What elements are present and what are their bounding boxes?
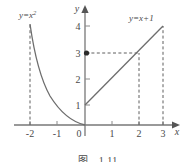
y-axis-label: y <box>74 3 80 14</box>
curve-label-parabola-exponent: 2 <box>33 9 37 16</box>
axes-group <box>14 5 180 136</box>
x-tick-label--2: -2 <box>26 128 34 139</box>
marked-point-0-3 <box>84 50 89 55</box>
dashed-guides-group <box>30 24 163 125</box>
figure-container: -2 -1 0 1 2 3 1 2 3 4 y x y=x2 y=x+1 图1.… <box>0 0 184 162</box>
svg-text:y=x2: y=x2 <box>18 9 37 21</box>
curve-label-parabola: y=x2 <box>18 9 37 21</box>
x-tick-label-0: 0 <box>77 128 82 139</box>
x-tick-label-2: 2 <box>137 128 142 139</box>
plot-canvas: -2 -1 0 1 2 3 1 2 3 4 y x y=x2 y=x+1 <box>0 0 184 162</box>
y-tick-label-2: 2 <box>76 74 81 85</box>
y-tick-labels: 1 2 3 4 <box>76 21 81 111</box>
caption-number: 1.11 <box>99 155 118 162</box>
y-axis-ticks <box>85 26 90 105</box>
y-axis-arrow <box>81 5 88 13</box>
x-tick-label-1: 1 <box>110 128 115 139</box>
y-tick-label-1: 1 <box>76 100 81 111</box>
y-tick-label-3: 3 <box>76 48 81 59</box>
caption-prefix: 图 <box>78 155 89 162</box>
x-tick-label-3: 3 <box>161 128 166 139</box>
y-tick-label-4: 4 <box>76 21 81 32</box>
x-tick-labels: -2 -1 0 1 2 3 <box>26 128 166 139</box>
x-axis-label: x <box>174 126 180 137</box>
figure-caption: 图1.11 <box>0 141 184 162</box>
curve-label-parabola-base: y=x <box>18 10 33 20</box>
x-tick-label--1: -1 <box>53 128 61 139</box>
linear-segment <box>85 26 163 105</box>
curve-label-linear: y=x+1 <box>128 13 154 23</box>
